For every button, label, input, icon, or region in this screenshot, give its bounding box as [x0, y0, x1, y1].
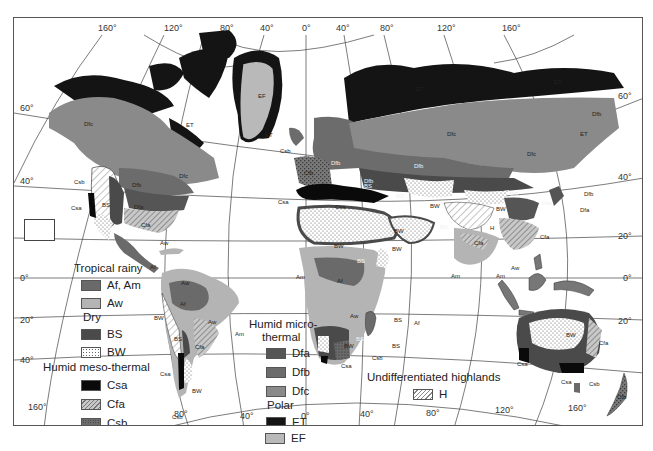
longitude-label-bottom: 80° — [174, 409, 188, 419]
region-label: Cfa — [195, 344, 204, 350]
region-label: Cfb — [617, 394, 626, 400]
region-label: Cfa — [540, 234, 549, 240]
sa-csa — [178, 353, 184, 390]
longitude-label-top: 40° — [260, 23, 274, 33]
region-label: ET — [186, 122, 194, 128]
region-label: H — [490, 225, 494, 231]
longitude-label-bottom: 80° — [426, 408, 440, 418]
region-label: Aw — [160, 240, 168, 246]
region-label: Dfb — [132, 182, 141, 188]
region-label: BS — [510, 191, 518, 197]
latitude-label-left: 40° — [20, 176, 34, 186]
legend-heading-humid-meso-thermal: Humid meso-thermal — [43, 361, 150, 373]
region-label: Dfb — [592, 111, 601, 117]
region-label: BW — [154, 315, 164, 321]
legend-code: EF — [291, 432, 306, 444]
region-label: ET — [265, 132, 273, 138]
latitude-label-right: 20° — [618, 316, 632, 326]
region-label: Cfa — [141, 222, 150, 228]
legend-item-h: H — [413, 387, 447, 401]
region-label: Af — [150, 264, 156, 270]
china-dfa — [504, 198, 539, 221]
region-label: BS — [102, 202, 110, 208]
madagascar — [365, 311, 376, 336]
region-label: Am — [451, 273, 460, 279]
region-label: EF — [258, 93, 266, 99]
region-label: Dfa — [542, 200, 551, 206]
region-label: Dfb — [364, 178, 373, 184]
region-label: BW — [496, 206, 506, 212]
longitude-label-bottom: 160° — [28, 402, 47, 412]
region-label: BS — [546, 344, 554, 350]
region-label: Csb — [74, 179, 85, 185]
region-label: Dfc — [84, 121, 93, 127]
swatch-dfb — [266, 367, 286, 378]
region-label: BS — [357, 258, 365, 264]
legend-heading-polar: Polar — [267, 399, 294, 411]
caribbean — [159, 248, 184, 255]
legend-item-csb: Csb — [81, 416, 127, 426]
na-cfa — [124, 208, 179, 233]
region-label: Dfc — [447, 131, 456, 137]
region-label: BS — [356, 336, 364, 342]
region-label: Csa — [561, 379, 572, 385]
longitude-label-top: 80° — [220, 23, 234, 33]
region-label: BS — [392, 343, 400, 349]
region-label: ET — [580, 131, 588, 137]
longitude-label-bottom: 120° — [495, 405, 514, 415]
longitude-label-bottom: 40° — [360, 409, 374, 419]
longitude-label-top: 0° — [302, 23, 311, 33]
sahara-bw — [298, 206, 397, 243]
region-label: ET — [416, 86, 424, 92]
region-label: Csa — [71, 205, 82, 211]
swatch-bs — [81, 329, 101, 340]
legend-item-csa: Csa — [81, 378, 127, 392]
latitude-label-left: 60° — [20, 103, 34, 113]
region-label: Cfa — [599, 340, 608, 346]
region-label: Cfb — [304, 170, 313, 176]
china-cfa — [499, 218, 539, 250]
region-label: Am — [296, 274, 305, 280]
region-label: Csa — [517, 361, 528, 367]
region-label: BS — [440, 224, 448, 230]
region-label: Dfc — [179, 173, 188, 179]
legend-item-cfa: Cfa — [81, 397, 125, 411]
legend-item-aw: Aw — [81, 296, 123, 310]
longitude-label-top: 80° — [380, 23, 394, 33]
legend-item-dfa: Dfa — [266, 346, 310, 360]
legend-code: BW — [107, 346, 126, 358]
longitude-label-bottom: 40° — [240, 411, 254, 421]
region-label: BW — [394, 228, 404, 234]
region-label: Dfb — [584, 191, 593, 197]
region-label: Dfb — [414, 163, 423, 169]
region-label: Aw — [181, 280, 189, 286]
latitude-label-right: 40° — [618, 172, 632, 182]
region-label: Am — [496, 273, 505, 279]
britain — [289, 128, 304, 146]
legend-item-dfc: Dfc — [266, 384, 309, 398]
swatch-dfc — [266, 386, 286, 397]
legend-code: Dfb — [292, 366, 310, 378]
legend-code: Csb — [107, 417, 127, 426]
region-label: Dfc — [527, 151, 536, 157]
tasmania — [574, 383, 580, 393]
tibet-h — [444, 202, 494, 230]
region-label: BW — [192, 388, 202, 394]
region-label: BS — [174, 336, 182, 342]
latitude-label-right: 60° — [618, 91, 632, 101]
latitude-label-left: 20° — [20, 315, 34, 325]
legend-item-af-am: Af, Am — [81, 278, 141, 292]
region-label: Af — [414, 320, 420, 326]
swatch-cfa — [81, 399, 101, 410]
region-label: Dfa — [580, 207, 589, 213]
region-label: Csa — [278, 199, 289, 205]
region-label: Aw — [350, 313, 358, 319]
legend-code: H — [439, 388, 447, 400]
australia-csa-south — [559, 363, 584, 373]
region-label: BS — [394, 317, 402, 323]
legend-heading-humid-micro-thermal: Humid micro- — [249, 318, 317, 330]
gobi-bw — [464, 190, 509, 205]
asia-bw — [404, 178, 454, 197]
latitude-label-right: 20° — [618, 231, 632, 241]
latitude-label-right: 0° — [623, 273, 632, 283]
